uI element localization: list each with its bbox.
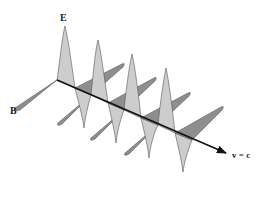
velocity-label: v = c	[232, 150, 250, 160]
b-field-label: B	[10, 105, 17, 116]
e-field-label: E	[60, 12, 67, 23]
em-wave-diagram: E B v = c	[0, 0, 268, 199]
